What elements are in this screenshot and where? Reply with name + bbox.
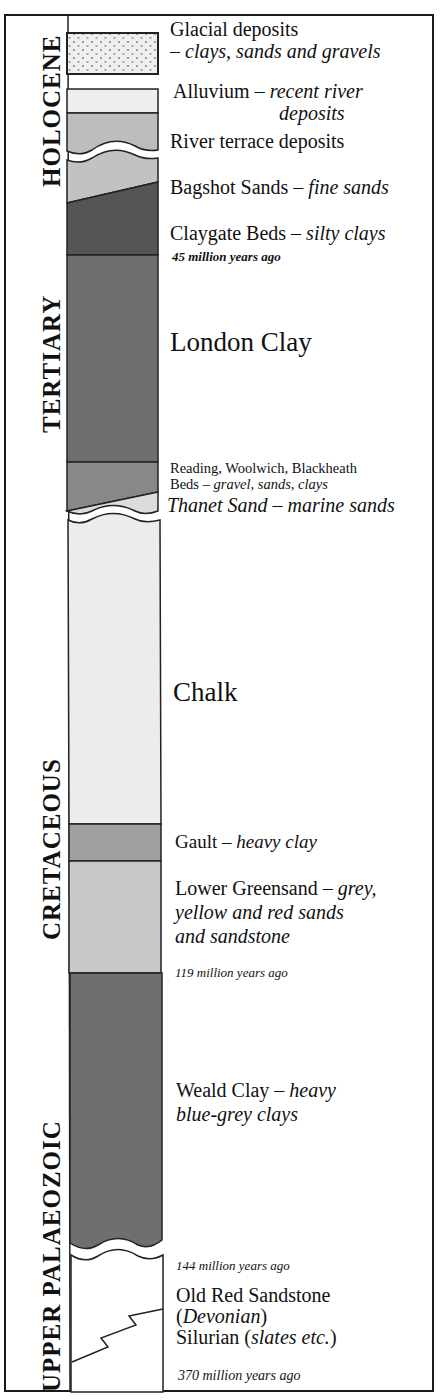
label-weald-clay: Weald Clay – heavy blue-grey clays bbox=[176, 1078, 336, 1126]
label-river-terrace: River terrace deposits bbox=[170, 130, 344, 152]
layer-glacial bbox=[67, 33, 158, 74]
layer-london-clay bbox=[67, 255, 158, 462]
layer-old-red-sandstone bbox=[71, 1250, 163, 1393]
era-label-cretaceous: CRETACEOUS bbox=[38, 758, 66, 940]
era-label-upper-palaeozoic: UPPER PALAEOZOIC bbox=[38, 1120, 66, 1392]
label-gault: Gault – heavy clay bbox=[175, 832, 317, 853]
label-alluvium: Alluvium – recent river deposits bbox=[173, 80, 363, 124]
label-london-clay: London Clay bbox=[170, 328, 312, 358]
label-reading: Reading, Woolwich, Blackheath Beds – gra… bbox=[170, 461, 357, 493]
era-label-tertiary: TERTIARY bbox=[38, 295, 66, 433]
label-claygate: Claygate Beds – silty clays bbox=[170, 222, 386, 244]
layer-chalk bbox=[68, 514, 161, 825]
age-45: 45 million years ago bbox=[172, 249, 281, 265]
layer-lower-greensand bbox=[69, 861, 161, 973]
label-old-red-sandstone: Old Red Sandstone (Devonian) Silurian (s… bbox=[176, 1285, 337, 1348]
label-thanet: Thanet Sand – marine sands bbox=[167, 494, 395, 516]
label-bagshot: Bagshot Sands – fine sands bbox=[170, 176, 389, 198]
layer-gault bbox=[69, 824, 161, 861]
layer-alluvium bbox=[67, 89, 158, 113]
layer-river-terrace bbox=[67, 113, 158, 154]
age-119: 119 million years ago bbox=[175, 965, 288, 981]
label-chalk: Chalk bbox=[173, 678, 238, 708]
layer-weald-clay bbox=[70, 973, 162, 1249]
age-144: 144 million years ago bbox=[176, 1258, 290, 1274]
label-glacial: Glacial deposits – clays, sands and grav… bbox=[170, 18, 381, 62]
age-370: 370 million years ago bbox=[178, 1368, 301, 1384]
label-lower-greensand: Lower Greensand – grey, yellow and red s… bbox=[175, 876, 376, 948]
era-label-holocene: HOLOCENE bbox=[38, 35, 66, 187]
